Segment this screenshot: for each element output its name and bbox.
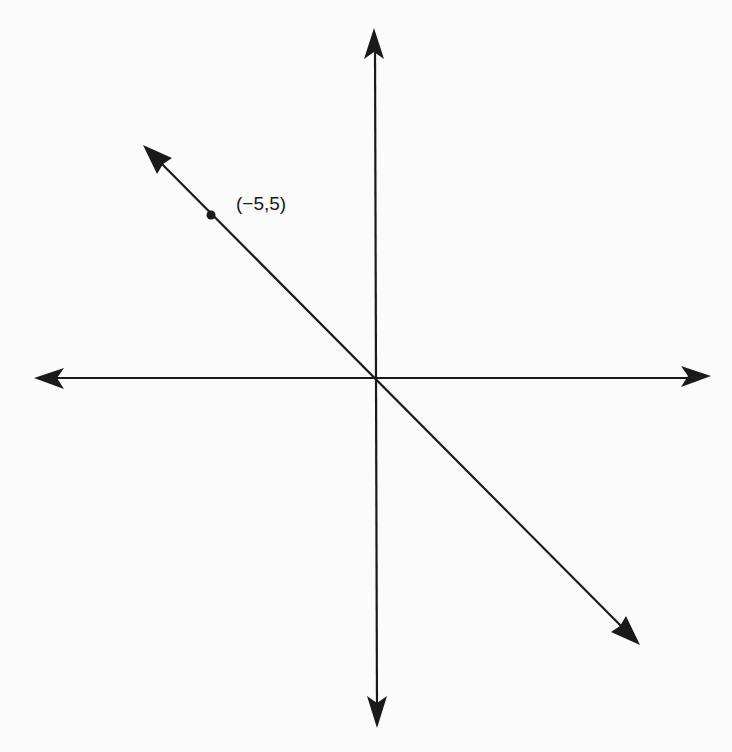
point-marker <box>207 211 216 220</box>
point-label: (−5,5) <box>236 193 286 214</box>
x-axis-right-arrow-icon <box>681 366 711 387</box>
coordinate-plane: (−5,5) <box>0 0 732 752</box>
line-slope-negative-one <box>143 145 640 645</box>
x-axis <box>34 366 711 389</box>
point-neg5-5: (−5,5) <box>207 193 287 220</box>
